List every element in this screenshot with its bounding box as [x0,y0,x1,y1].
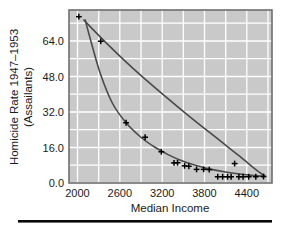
horizontal-rule [18,220,272,223]
x-tick-label: 2600 [108,187,132,199]
y-tick-label: 64.0 [43,35,64,47]
x-tick-label: 2000 [65,187,89,199]
y-axis-label-line1: Homicide Rate 1947–1953 [8,29,20,165]
y-tick-label: 48.0 [43,71,64,83]
y-tick-label: 0.0 [49,177,64,189]
x-tick-label: 3800 [192,187,216,199]
y-tick-label: 16.0 [43,142,64,154]
x-axis-label: Median Income [131,202,210,214]
x-tick-label: 4400 [235,187,259,199]
y-axis-label-line2: (Assailants) [22,67,34,127]
chart-figure: 2000 2600 3200 3800 4400 0.0 16.0 32.0 4… [0,0,290,227]
y-tick-label: 32.0 [43,106,64,118]
x-tick-label: 3200 [150,187,174,199]
